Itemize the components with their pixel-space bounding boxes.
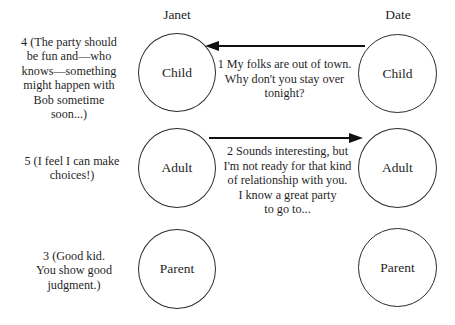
- side-note-4: 4 (The party should be fun and—who knows…: [2, 35, 136, 121]
- column-header-janet: Janet: [138, 8, 216, 22]
- column-header-date: Date: [358, 8, 438, 22]
- ego-state-circle-date-parent: Parent: [358, 228, 437, 307]
- side-note-line: choices!): [6, 168, 138, 182]
- side-note-line: knows—something: [2, 64, 136, 78]
- side-note-line: 4 (The party should: [2, 35, 136, 49]
- transaction-line: Why don't you stay over: [206, 72, 363, 87]
- ego-state-circle-date-child: Child: [358, 34, 437, 113]
- ego-state-circle-janet-parent: Parent: [138, 229, 216, 309]
- ego-state-label: Child: [382, 67, 412, 81]
- ego-state-label: Parent: [380, 261, 415, 275]
- transaction-line: 1 My folks are out of town.: [206, 57, 363, 72]
- side-note-line: 3 (Good kid.: [12, 249, 136, 263]
- transaction-line: I know a great party: [202, 188, 373, 203]
- side-note-3: 3 (Good kid. You show good judgment.): [12, 249, 136, 292]
- side-note-line: Bob sometime: [2, 93, 136, 107]
- ego-state-label: Parent: [160, 262, 195, 276]
- transaction-line: of relationship with you.: [202, 173, 373, 188]
- transaction-line: tonight?: [206, 86, 363, 101]
- transaction-line: to go to...: [202, 202, 373, 217]
- side-note-line: be fun and—who: [2, 49, 136, 63]
- ego-state-label: Adult: [382, 161, 413, 175]
- transaction-text-2: 2 Sounds interesting, but I'm not ready …: [202, 144, 373, 217]
- transactional-analysis-diagram: Janet Date Child Adult Parent Child Adul…: [0, 0, 455, 325]
- side-note-line: You show good: [12, 263, 136, 277]
- transaction-line: I'm not ready for that kind: [202, 159, 373, 174]
- transaction-arrow-1-leftward: [205, 38, 365, 54]
- ego-state-label: Adult: [162, 161, 193, 175]
- side-note-5: 5 (I feel I can make choices!): [6, 154, 138, 183]
- transaction-line: 2 Sounds interesting, but: [202, 144, 373, 159]
- side-note-line: 5 (I feel I can make: [6, 154, 138, 168]
- side-note-line: soon...): [2, 107, 136, 121]
- side-note-line: judgment.): [12, 278, 136, 292]
- transaction-text-1: 1 My folks are out of town. Why don't yo…: [206, 57, 363, 101]
- ego-state-label: Child: [162, 66, 192, 80]
- side-note-line: might happen with: [2, 78, 136, 92]
